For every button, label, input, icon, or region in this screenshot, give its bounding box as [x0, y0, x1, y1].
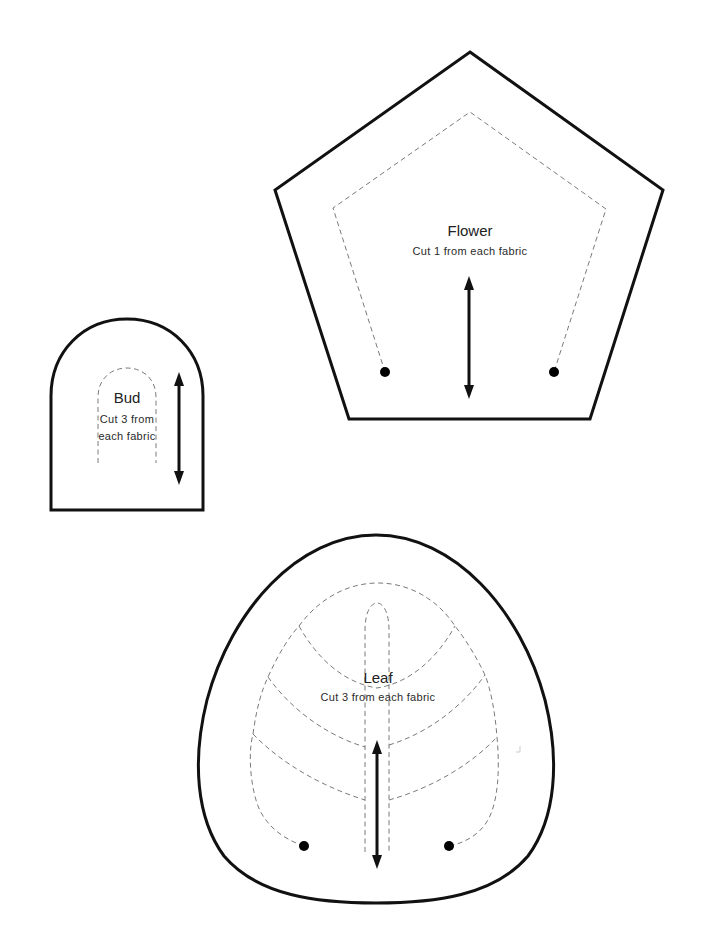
leaf-match-dot-right [444, 841, 454, 851]
scan-artifact-mark [516, 746, 520, 752]
pattern-sheet: Flower Cut 1 from each fabric Bud Cut 3 … [0, 0, 701, 930]
flower-pattern-piece: Flower Cut 1 from each fabric [275, 52, 663, 419]
bud-title: Bud [114, 389, 141, 406]
leaf-instruction: Cut 3 from each fabric [321, 691, 436, 703]
bud-pattern-piece: Bud Cut 3 from each fabric [51, 319, 203, 510]
leaf-grainline-arrow-icon [372, 740, 382, 869]
bud-instruction-line2: each fabric [98, 430, 155, 442]
leaf-vein-middle-left [268, 677, 365, 747]
bud-instruction-line1: Cut 3 from [100, 413, 154, 425]
leaf-vein-lower-left [253, 734, 365, 800]
leaf-vein-middle-right [389, 675, 485, 745]
bud-grainline-arrow-icon [174, 372, 184, 485]
flower-title: Flower [447, 222, 492, 239]
leaf-pattern-piece: Leaf Cut 3 from each fabric [198, 535, 553, 903]
flower-grainline-arrow-icon [464, 276, 474, 399]
leaf-title: Leaf [363, 669, 393, 686]
leaf-vein-lower-right [389, 737, 497, 800]
leaf-seam-outline [250, 583, 498, 846]
flower-match-dot-left [380, 367, 390, 377]
flower-match-dot-right [549, 367, 559, 377]
flower-instruction: Cut 1 from each fabric [413, 245, 528, 257]
leaf-match-dot-left [299, 841, 309, 851]
